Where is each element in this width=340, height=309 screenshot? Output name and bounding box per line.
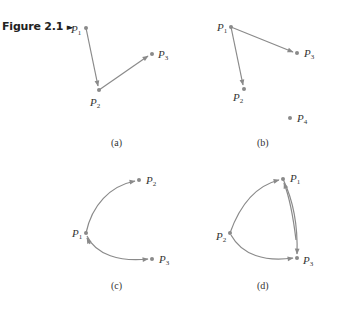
edge-p1-p3	[87, 236, 148, 260]
panel-d: P1 P2 P3 (d)	[215, 172, 314, 292]
label-p2: P2	[232, 91, 244, 105]
vertex-p2	[228, 231, 232, 235]
label-p3: P3	[158, 253, 170, 267]
vertex-p2	[97, 88, 101, 92]
edge-p1-p3	[283, 179, 297, 254]
vertex-p1	[84, 26, 88, 30]
vertex-p2	[242, 87, 246, 91]
label-p2: P2	[215, 230, 227, 244]
vertex-p3	[295, 256, 299, 260]
label-p3: P3	[157, 48, 169, 62]
label-p4: P4	[296, 112, 308, 126]
caption-b: (b)	[257, 137, 269, 149]
figure-diagram: P1 P2 P3 (a) P1 P2 P3 P4 (b) P1 P2 P3 (c…	[0, 0, 340, 309]
caption-c: (c)	[111, 280, 122, 292]
panel-a: P1 P2 P3 (a)	[70, 23, 169, 149]
vertex-p3	[150, 257, 154, 261]
edge-p1-p2	[86, 181, 135, 233]
label-p3: P3	[303, 47, 315, 61]
edge-p2-p3	[231, 235, 293, 259]
edge-p2-p3	[99, 56, 148, 90]
vertex-p3	[150, 52, 154, 56]
label-p1: P1	[289, 172, 301, 186]
edge-p1-p2	[86, 28, 98, 86]
vertex-p1	[229, 25, 233, 29]
vertex-p2	[137, 178, 141, 182]
label-p1: P1	[71, 227, 83, 241]
vertex-p4	[288, 116, 292, 120]
label-p1: P1	[70, 23, 82, 37]
edge-p2-p1	[230, 180, 279, 233]
caption-a: (a)	[111, 137, 122, 149]
edge-p1-p2	[231, 27, 243, 85]
caption-d: (d)	[257, 280, 269, 292]
edge-p1-p3	[231, 27, 293, 52]
vertex-p1	[281, 177, 285, 181]
vertex-p3	[295, 51, 299, 55]
panel-b: P1 P2 P3 P4 (b)	[216, 21, 315, 149]
vertex-p1	[84, 231, 88, 235]
label-p2: P2	[89, 96, 101, 110]
panel-c: P1 P2 P3 (c)	[71, 174, 170, 292]
label-p3: P3	[302, 254, 314, 268]
label-p2: P2	[145, 174, 157, 188]
label-p1: P1	[216, 21, 228, 35]
